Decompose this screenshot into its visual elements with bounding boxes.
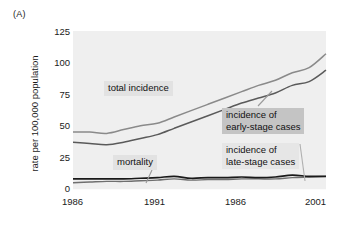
x-tick-2: 1991 <box>144 197 165 207</box>
x-tick-4: 2001 <box>305 197 326 207</box>
x-axis-ticks: 1986 1991 1986 2001 <box>0 0 343 225</box>
x-tick-1: 1986 <box>62 197 83 207</box>
x-tick-3: 1986 <box>225 197 246 207</box>
figure-panel-a: (A) rate per 100,000 population 125 100 … <box>0 0 343 225</box>
